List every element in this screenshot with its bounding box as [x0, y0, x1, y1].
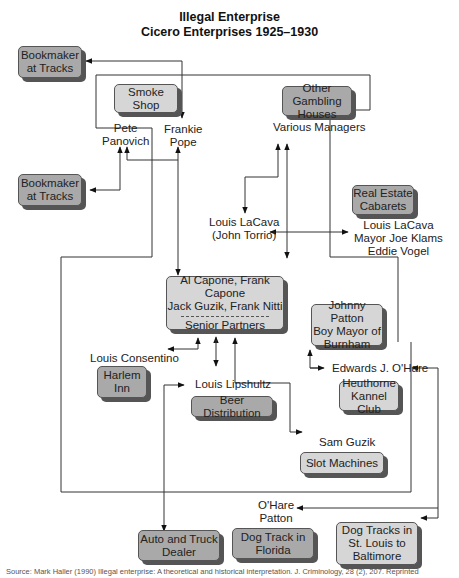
label-various-managers: Various Managers: [273, 121, 365, 134]
box-text: Bookmaker: [19, 177, 81, 190]
box-text: Harlem: [98, 369, 146, 382]
label-text: (John Torrio): [209, 229, 279, 242]
auto-and-truck-dealer-box: Auto and Truck Dealer: [138, 530, 220, 561]
label-text: Louis LaCava: [354, 219, 443, 232]
slot-machines-box: Slot Machines: [300, 452, 384, 474]
source-citation: Source: Mark Haller (1990) Illegal enter…: [6, 567, 419, 576]
beer-distribution-box: Beer Distribution: [191, 396, 273, 417]
box-text: Burnham: [312, 338, 382, 351]
box-text: Dog Tracks in: [337, 524, 417, 537]
label-frankie-pope: Frankie Pope: [164, 123, 202, 149]
box-text: Beer Distribution: [192, 394, 272, 420]
label-text: Patton: [258, 512, 294, 525]
box-text: Other Gambling: [283, 82, 351, 108]
label-text: Mayor Joe Klams: [354, 232, 443, 245]
smoke-shop-box: Smoke Shop: [114, 84, 178, 113]
label-text: Eddie Vogel: [354, 245, 443, 258]
box-text: Smoke Shop: [115, 86, 177, 112]
label-text: Pete: [102, 122, 149, 135]
box-text: Dog Track in: [233, 531, 313, 544]
box-text: St. Louis to: [337, 537, 417, 550]
box-text: Houses: [283, 108, 351, 121]
label-text: O'Hare: [258, 499, 294, 512]
dog-track-florida-box: Dog Track in Florida: [232, 528, 314, 559]
label-text: Panovich: [102, 135, 149, 148]
box-text: Real Estate: [353, 187, 413, 200]
box-text: Auto and Truck: [139, 533, 219, 546]
partners-role: Senior Partners: [167, 319, 283, 332]
box-text: Baltimore: [337, 550, 417, 563]
heuthorne-kannel-club-box: Heuthorne Kannel Club: [339, 381, 399, 411]
label-louis-consentino: Louis Consentino: [90, 352, 179, 365]
label-ohare-patton: O'Hare Patton: [258, 499, 294, 525]
johnny-patton-box: Johnny Patton Boy Mayor of Burnham: [311, 304, 383, 346]
partners-line-2: Jack Guzik, Frank Nitti: [167, 300, 283, 313]
label-louis-lipshultz: Louis Lipshultz: [195, 378, 271, 391]
label-text: Frankie: [164, 123, 202, 136]
bookmaker-at-tracks-mid-box: Bookmaker at Tracks: [18, 174, 82, 206]
dashed-divider: [181, 316, 269, 317]
box-text: at Tracks: [19, 62, 81, 75]
label-lacava-group: Louis LaCava Mayor Joe Klams Eddie Vogel: [354, 219, 443, 258]
box-text: Bookmaker: [19, 49, 81, 62]
label-edwards-ohare: Edwards J. O'Hare: [332, 362, 428, 375]
label-text: Pope: [164, 136, 202, 149]
partners-line-1: Al Capone, Frank Capone: [167, 274, 283, 300]
box-text: at Tracks: [19, 190, 81, 203]
label-lacava-torrio: Louis LaCava (John Torrio): [209, 216, 279, 242]
box-text: Kannel Club: [340, 390, 398, 416]
label-sam-guzik: Sam Guzik: [319, 436, 375, 449]
box-text: Dealer: [139, 546, 219, 559]
box-text: Boy Mayor of: [312, 325, 382, 338]
real-estate-cabarets-box: Real Estate Cabarets: [352, 185, 414, 215]
box-text: Inn: [98, 382, 146, 395]
senior-partners-box: Al Capone, Frank Capone Jack Guzik, Fran…: [166, 276, 284, 330]
label-text: Louis LaCava: [209, 216, 279, 229]
dog-tracks-stlouis-box: Dog Tracks in St. Louis to Baltimore: [336, 522, 418, 565]
box-text: Cabarets: [353, 200, 413, 213]
box-text: Florida: [233, 544, 313, 557]
label-pete-panovich: Pete Panovich: [102, 122, 149, 148]
other-gambling-houses-box: Other Gambling Houses: [282, 86, 352, 116]
harlem-inn-box: Harlem Inn: [97, 366, 147, 398]
box-text: Johnny Patton: [312, 299, 382, 325]
bookmaker-at-tracks-top-box: Bookmaker at Tracks: [18, 46, 82, 78]
box-text: Slot Machines: [301, 457, 383, 470]
box-text: Heuthorne: [340, 377, 398, 390]
